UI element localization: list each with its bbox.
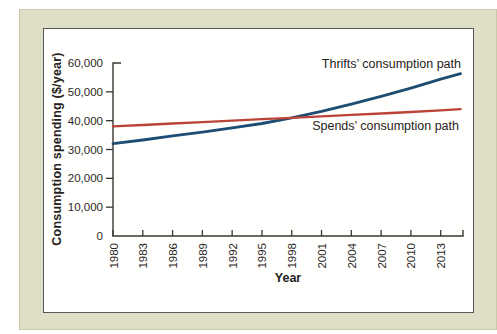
plot-area: 010,00020,00030,00040,00050,00060,000198…: [44, 29, 473, 312]
svg-text:50,000: 50,000: [68, 86, 103, 98]
svg-text:30,000: 30,000: [68, 144, 103, 156]
svg-text:60,000: 60,000: [68, 57, 103, 69]
svg-text:10,000: 10,000: [68, 201, 103, 213]
svg-text:2013: 2013: [435, 243, 447, 269]
svg-text:2001: 2001: [316, 243, 328, 269]
svg-text:0: 0: [97, 230, 103, 242]
y-axis-title: Consumption spending ($/year): [48, 39, 66, 259]
svg-text:1998: 1998: [286, 243, 298, 269]
svg-text:1983: 1983: [137, 243, 149, 269]
series-label-spends: Spends’ consumption path: [312, 119, 459, 133]
svg-text:1986: 1986: [167, 243, 179, 269]
svg-text:2010: 2010: [405, 243, 417, 269]
figure-panel: 010,00020,00030,00040,00050,00060,000198…: [19, 9, 497, 330]
svg-text:20,000: 20,000: [68, 172, 103, 184]
x-axis-title: Year: [113, 271, 463, 285]
svg-text:1989: 1989: [197, 243, 209, 269]
svg-text:2007: 2007: [376, 243, 388, 269]
svg-text:1995: 1995: [256, 243, 268, 269]
page-background: { "colors": { "page_background": "#fffff…: [0, 0, 497, 334]
svg-text:1980: 1980: [108, 243, 120, 269]
svg-text:40,000: 40,000: [68, 115, 103, 127]
svg-text:2004: 2004: [346, 242, 358, 268]
svg-text:1992: 1992: [227, 243, 239, 269]
series-label-thrifts: Thrifts’ consumption path: [322, 57, 461, 71]
chart-frame: 010,00020,00030,00040,00050,00060,000198…: [43, 28, 474, 313]
